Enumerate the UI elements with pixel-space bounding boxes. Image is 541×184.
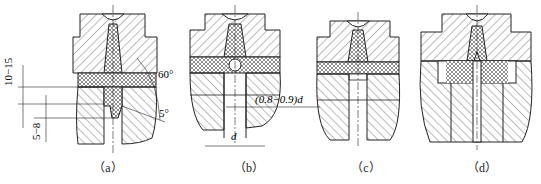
gate-design-diagram bbox=[0, 0, 541, 184]
dim-d: d bbox=[231, 130, 237, 142]
caption-d: （d） bbox=[462, 158, 502, 176]
dim-diameter-ratio: (0.8−0.9)d bbox=[255, 93, 303, 105]
caption-b: （b） bbox=[229, 158, 269, 176]
panel-d bbox=[420, 5, 532, 150]
angle-5: 5° bbox=[159, 107, 169, 119]
panel-b bbox=[190, 5, 320, 146]
caption-a: （a） bbox=[88, 158, 128, 176]
dim-5-8: 5−8 bbox=[30, 123, 42, 140]
caption-c: （c） bbox=[346, 158, 386, 176]
dim-10-15: 10−15 bbox=[2, 58, 14, 86]
panel-c bbox=[317, 12, 400, 148]
angle-60: 60° bbox=[158, 68, 173, 80]
